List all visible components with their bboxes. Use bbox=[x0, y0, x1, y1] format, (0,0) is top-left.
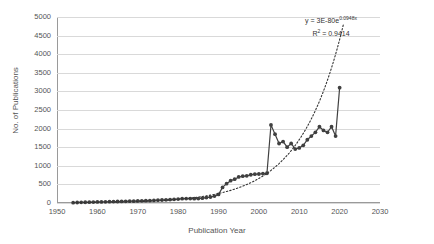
plot-area bbox=[57, 17, 380, 203]
x-tick-label: 1990 bbox=[199, 208, 239, 216]
data-point-marker bbox=[289, 142, 293, 146]
data-point-marker bbox=[116, 200, 120, 204]
x-tick-label: 1960 bbox=[77, 208, 117, 216]
data-point-marker bbox=[245, 174, 249, 178]
data-point-marker bbox=[225, 182, 229, 186]
data-point-marker bbox=[318, 125, 322, 129]
data-point-marker bbox=[338, 86, 342, 90]
x-axis-title: Publication Year bbox=[0, 226, 434, 235]
x-tick-label: 2030 bbox=[360, 208, 400, 216]
x-tick-label: 1980 bbox=[158, 208, 198, 216]
x-tick-label: 2000 bbox=[239, 208, 279, 216]
data-point-marker bbox=[128, 199, 132, 203]
r-squared-value: = 0.9414 bbox=[320, 31, 349, 38]
data-point-marker bbox=[285, 145, 289, 149]
data-point-marker bbox=[269, 123, 273, 127]
data-point-marker bbox=[257, 172, 261, 176]
data-point-marker bbox=[132, 199, 136, 203]
data-point-marker bbox=[273, 132, 277, 136]
r-squared-line: R2 = 0.9414 bbox=[281, 26, 381, 39]
data-point-marker bbox=[112, 200, 116, 204]
data-point-marker bbox=[136, 199, 140, 203]
series-line bbox=[73, 88, 339, 203]
data-point-marker bbox=[305, 138, 309, 142]
data-point-marker bbox=[330, 125, 334, 129]
y-tick-label: 5000 bbox=[5, 13, 51, 21]
data-point-marker bbox=[326, 130, 330, 134]
data-point-marker bbox=[221, 185, 225, 189]
equation-line: y = 3E-80e0.0948x bbox=[281, 13, 381, 26]
y-axis-title: No. of Publications bbox=[11, 41, 20, 161]
x-tick-label: 1970 bbox=[118, 208, 158, 216]
data-point-marker bbox=[281, 140, 285, 144]
data-point-marker bbox=[233, 177, 237, 181]
series-plot bbox=[57, 17, 380, 203]
y-tick-label: 500 bbox=[5, 180, 51, 188]
x-tick-label: 2020 bbox=[320, 208, 360, 216]
data-point-marker bbox=[253, 172, 257, 176]
data-point-marker bbox=[297, 146, 301, 150]
data-point-marker bbox=[229, 179, 233, 183]
trendline-equation-annotation: y = 3E-80e0.0948x R2 = 0.9414 bbox=[281, 13, 381, 40]
data-point-marker bbox=[108, 200, 112, 204]
data-point-marker bbox=[120, 200, 124, 204]
y-tick-label: 0 bbox=[5, 199, 51, 207]
x-tick-label: 1950 bbox=[37, 208, 77, 216]
equation-text: y = 3E-80e bbox=[305, 17, 339, 24]
data-point-marker bbox=[314, 130, 318, 134]
publications-line-chart: 0500100015002000250030003500400045005000… bbox=[0, 0, 434, 244]
data-point-marker bbox=[241, 174, 245, 178]
data-point-marker bbox=[124, 199, 128, 203]
exponential-trendline bbox=[73, 23, 344, 202]
data-point-marker bbox=[322, 129, 326, 133]
equation-exponent: 0.0948x bbox=[339, 15, 357, 21]
data-point-marker bbox=[309, 134, 313, 138]
data-point-marker bbox=[277, 142, 281, 146]
data-point-marker bbox=[334, 134, 338, 138]
x-tick-label: 2010 bbox=[279, 208, 319, 216]
y-tick-label: 4500 bbox=[5, 32, 51, 40]
data-point-marker bbox=[301, 143, 305, 147]
data-point-marker bbox=[249, 173, 253, 177]
y-tick-label: 1000 bbox=[5, 162, 51, 170]
data-point-marker bbox=[237, 175, 241, 179]
